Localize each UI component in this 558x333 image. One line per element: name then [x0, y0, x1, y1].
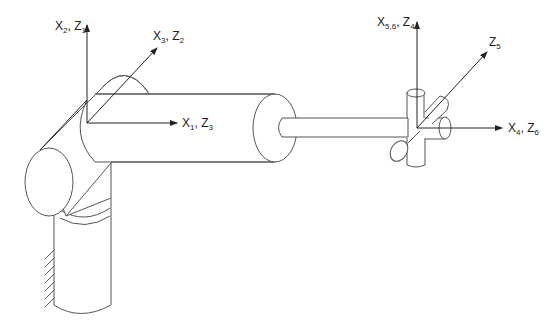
- hatch-line: [45, 258, 54, 267]
- label-x56-z4: X5,6, Z4: [377, 15, 415, 31]
- base-column: [54, 198, 111, 314]
- base-cylinder-body: [54, 198, 111, 314]
- label-z5: Z5: [489, 35, 501, 51]
- label-x3-z2: X3, Z2: [153, 29, 184, 45]
- hatch-line: [45, 250, 54, 259]
- hatch-line: [45, 282, 54, 291]
- forearm-rod: [279, 118, 409, 137]
- hatch-line: [45, 298, 54, 307]
- wrist-top-cap: [407, 89, 425, 97]
- wrist-bottom-stub: [407, 138, 425, 167]
- hatch-line: [45, 274, 54, 283]
- label-x2-z1: X2, Z1: [55, 19, 86, 35]
- shoulder-joint-ellipse: [25, 148, 73, 216]
- ground-hatch: [45, 250, 54, 307]
- hatch-line: [45, 266, 54, 275]
- hatch-line: [45, 290, 54, 299]
- axis-z5: [417, 52, 487, 128]
- robot-arm-diagram: X2, Z1 X3, Z2 X1, Z3 X5,6, Z4 Z5 X4, Z6: [0, 0, 558, 333]
- forearm: [279, 118, 409, 137]
- label-x4-z6: X4, Z6: [508, 121, 539, 137]
